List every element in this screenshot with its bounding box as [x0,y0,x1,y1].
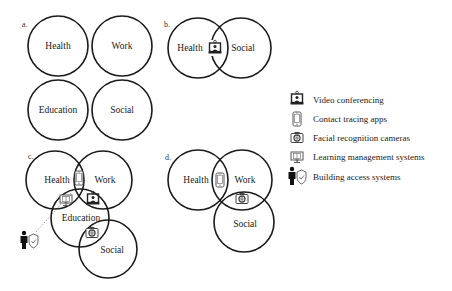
label-work: Work [235,175,256,185]
legend-item: Learning management systems [291,152,425,163]
label-health: Health [44,175,70,185]
facial-recognition-camera-icon [236,193,248,204]
legend: Video conferencing Contact tracing apps … [289,91,425,185]
legend-label: Learning management systems [313,152,425,162]
legend-label: Contact tracing apps [313,114,387,124]
panel-b: b. Health Social [164,18,271,78]
label-social: Social [231,43,255,53]
legend-label: Video conferencing [313,95,384,105]
contact-tracing-app-icon [293,112,301,126]
label-social: Social [110,105,134,115]
facial-recognition-camera-icon [86,227,98,238]
label-health: Health [177,43,203,53]
label-social: Social [233,219,257,229]
label-social: Social [100,245,124,255]
video-conferencing-icon [291,91,304,104]
venn-diagram-figure: a. Health Work Education Social b. Healt… [0,0,452,291]
panel-label-b: b. [164,20,170,29]
label-work: Work [112,41,133,51]
building-access-system-icon [289,167,307,185]
legend-label: Building access systems [313,172,401,182]
legend-item: Contact tracing apps [293,112,387,126]
label-education: Education [62,213,101,223]
label-health: Health [183,175,209,185]
legend-item: Facial recognition cameras [291,132,410,143]
video-conferencing-icon [87,191,100,204]
panel-label-c: c. [28,152,34,161]
panel-label-d: d. [165,153,171,162]
label-health: Health [45,41,71,51]
contact-tracing-app-icon [75,171,83,185]
panel-c: c. Health Work Education Social [21,151,138,278]
legend-item: Video conferencing [291,91,385,105]
panel-d: d. Health Work Social [165,150,274,252]
legend-label: Facial recognition cameras [313,133,410,143]
panel-label-a: a. [22,20,28,29]
facial-recognition-camera-icon [291,132,303,143]
building-access-system-icon [21,231,39,249]
label-education: Education [39,105,78,115]
contact-tracing-app-icon [216,173,224,187]
legend-item: Building access systems [289,167,401,185]
learning-management-system-icon [291,152,303,163]
label-work: Work [95,175,116,185]
panel-a: a. Health Work Education Social [22,16,152,140]
